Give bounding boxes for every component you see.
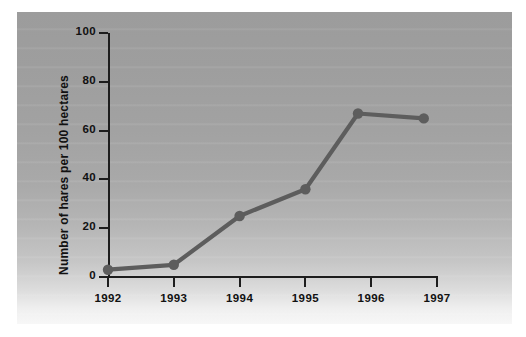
chart-figure: Number of hares per 100 hectares 0204060… <box>0 0 526 337</box>
data-point-marker <box>300 184 310 194</box>
data-point-marker <box>234 211 244 221</box>
series-markers <box>103 108 429 275</box>
data-point-marker <box>353 108 363 118</box>
line-chart-plot: Number of hares per 100 hectares 0204060… <box>0 0 526 337</box>
data-point-marker <box>169 260 179 270</box>
data-point-marker <box>103 265 113 275</box>
series-line <box>108 114 424 270</box>
data-series-layer <box>0 0 526 337</box>
data-point-marker <box>419 113 429 123</box>
